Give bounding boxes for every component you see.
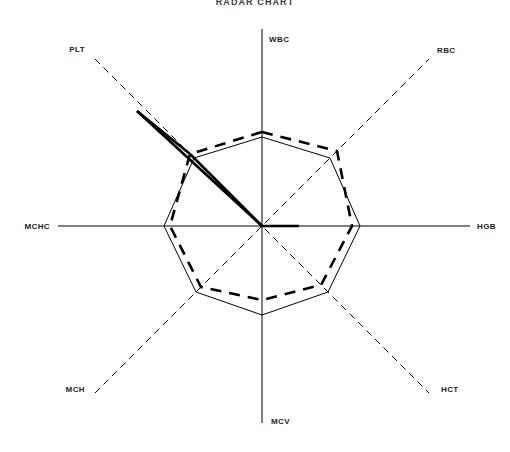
axis-label-rbc: RBC (437, 46, 456, 55)
thick-series-polygon (137, 111, 299, 226)
axis-label-plt: PLT (69, 45, 85, 54)
radar-chart-container: RADAR CHART WBC RBC HGB HCT MCV MCH MCHC (0, 0, 510, 452)
radar-plot: WBC RBC HGB HCT MCV MCH MCHC PLT (0, 0, 510, 452)
axis-label-hgb: HGB (477, 222, 496, 231)
axis-label-mchc: MCHC (24, 222, 50, 231)
axis-label-wbc: WBC (269, 35, 289, 44)
axis-label-mcv: MCV (271, 417, 290, 426)
thick-series-plt-return-edge (190, 154, 262, 226)
thick-series-plt-spike-edge (137, 111, 190, 154)
axis-label-hct: HCT (441, 385, 459, 394)
axis-label-mch: MCH (66, 385, 85, 394)
